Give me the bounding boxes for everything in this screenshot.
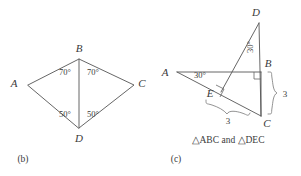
vertex-label-A-c: A [161, 66, 169, 78]
figure-svg: A B C D 70° 70° 50° 50° (b) [0, 0, 301, 176]
angle-label-at-D: 30° [245, 41, 255, 53]
geometry-figure-root: A B C D 70° 70° 50° 50° (b) [0, 0, 301, 176]
brace-BC [268, 72, 277, 114]
vertex-label-D-c: D [251, 6, 260, 18]
vertex-label-C-c: C [263, 117, 271, 129]
vertex-label-A-b: A [10, 77, 18, 89]
quadrilateral-ABCD [28, 59, 134, 128]
panel-c-caption: △ABC and △DEC [192, 135, 265, 145]
vertex-label-E-c: E [206, 87, 214, 99]
segment-DE [221, 23, 259, 92]
length-label-EC: 3 [226, 116, 231, 126]
right-angle-at-E-icon [216, 85, 224, 97]
vertex-label-B-c: B [265, 57, 272, 69]
panel-b-group: A B C D 70° 70° 50° 50° (b) [10, 42, 147, 165]
angle-label-DBC: 70° [87, 67, 99, 77]
vertex-label-C-b: C [138, 77, 146, 89]
panel-label-b: (b) [17, 154, 28, 165]
segment-AC [177, 72, 261, 116]
brace-EC [206, 100, 250, 115]
angle-label-at-A: 30° [194, 70, 206, 80]
panel-c-group: A B C D E 30° 30° 3 3 △ABC and △DEC (c) [161, 6, 288, 165]
segment-DC [259, 23, 261, 116]
length-label-BC: 3 [283, 89, 288, 99]
angle-label-ABD: 70° [59, 67, 71, 77]
angle-label-BDA: 50° [59, 109, 71, 119]
angle-label-BDC: 50° [87, 109, 99, 119]
panel-label-c: (c) [171, 154, 182, 165]
vertex-label-D-b: D [74, 132, 83, 144]
vertex-label-B-b: B [76, 42, 83, 54]
